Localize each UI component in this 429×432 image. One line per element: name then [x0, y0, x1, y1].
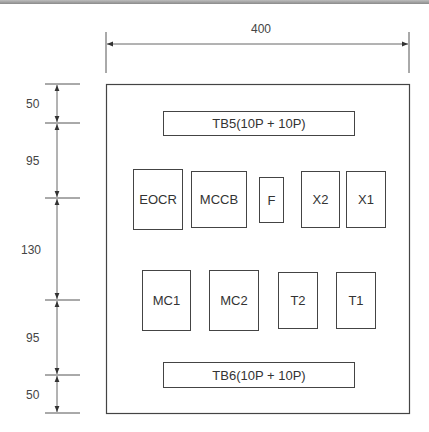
component-x1: X1: [346, 171, 386, 228]
component-t2: T2: [278, 272, 318, 329]
dim-label-middle-gap: 130: [21, 244, 41, 256]
component-fuse: F: [259, 177, 284, 223]
component-t1: T1: [336, 272, 376, 329]
dim-label-bottom-margin: 50: [26, 389, 39, 401]
dim-label-upper-gap: 95: [26, 155, 39, 167]
component-x2: X2: [301, 171, 340, 228]
component-mccb: MCCB: [191, 171, 247, 228]
terminal-block-tb6: TB6(10P + 10P): [163, 362, 355, 388]
component-mc1: MC1: [142, 270, 191, 331]
width-dimension-label: 400: [251, 23, 271, 35]
component-mc2: MC2: [209, 270, 259, 331]
dim-label-top-margin: 50: [26, 98, 39, 110]
component-eocr: EOCR: [133, 169, 183, 230]
dim-label-lower-gap: 95: [26, 332, 39, 344]
terminal-block-tb5: TB5(10P + 10P): [163, 111, 355, 136]
